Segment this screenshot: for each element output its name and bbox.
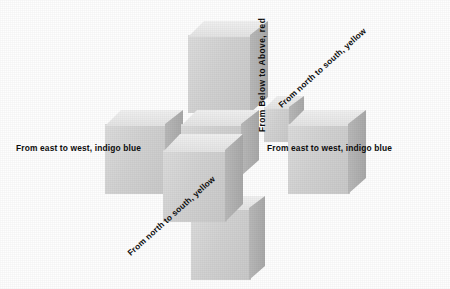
cube-below-right-face [249, 196, 265, 280]
cube-east-front-face [288, 124, 350, 194]
label-below-above: From Below to Above, red [258, 18, 266, 132]
cube-above-front-face [188, 35, 252, 113]
cube-west-front-face [105, 124, 167, 194]
cube-above [188, 21, 268, 113]
label-east-west-right: From east to west, indigo blue [267, 144, 392, 152]
label-east-west-left: From east to west, indigo blue [16, 144, 141, 152]
cube-axes-diagram: From east to west, indigo blue From east… [0, 0, 450, 289]
label-north-south-top: From north to south, yellow [277, 26, 368, 109]
